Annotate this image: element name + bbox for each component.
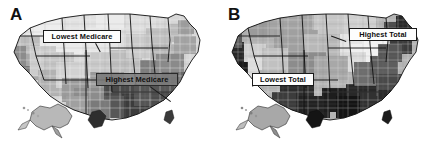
callout-highest-medicare[interactable]: Highest Medicare [96,73,178,86]
callout-lowest-medicare[interactable]: Lowest Medicare [43,30,121,43]
callout-lowest-total[interactable]: Lowest Total [252,73,314,86]
panel-b-counties [218,0,436,149]
us-county-choropleth-b [218,0,436,149]
panel-b-small-inset [382,110,392,124]
panel-b-alaska-inset [236,104,290,138]
panel-a: A [0,0,218,149]
panel-a-small-inset [164,110,174,124]
panel-a-alaska-inset [18,104,72,138]
panel-b: B [218,0,436,149]
callout-highest-total[interactable]: Highest Total [349,28,417,41]
panel-b-map [218,0,436,149]
figure-two-panel-map: A [0,0,436,149]
